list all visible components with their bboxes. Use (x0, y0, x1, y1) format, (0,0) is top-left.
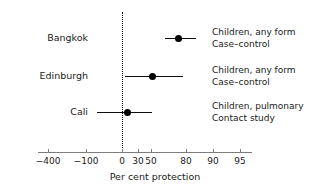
x-axis-title: Per cent protection (0, 171, 310, 182)
annotation-cali: Children, pulmonaryContact study (212, 101, 304, 124)
point-estimate-edinburgh (149, 73, 156, 80)
x-tick-label-3: 30 (132, 156, 143, 166)
x-tick-4 (151, 149, 152, 152)
x-tick-label-5: 80 (180, 156, 191, 166)
x-tick-7 (240, 149, 241, 152)
annotation-bangkok: Children, any formCase–control (212, 27, 296, 50)
x-tick-2 (122, 149, 123, 152)
annotation-line-1: Children, any form (212, 65, 296, 77)
x-tick-5 (186, 149, 187, 152)
x-tick-label-7: 95 (234, 156, 245, 166)
annotation-line-1: Children, pulmonary (212, 101, 304, 113)
annotation-line-2: Contact study (212, 113, 304, 125)
zero-reference-line (122, 12, 123, 152)
x-tick-3 (138, 149, 139, 152)
x-tick-label-4: 50 (145, 156, 156, 166)
x-tick-1 (86, 149, 87, 152)
annotation-line-2: Case–control (212, 77, 296, 89)
point-estimate-bangkok (175, 35, 182, 42)
plot-area: BangkokChildren, any formCase–controlEdi… (0, 0, 310, 192)
x-tick-label-6: 90 (207, 156, 218, 166)
annotation-edinburgh: Children, any formCase–control (212, 65, 296, 88)
point-estimate-cali (124, 109, 131, 116)
x-tick-label-2: 0 (119, 156, 125, 166)
x-tick-label-1: −100 (74, 156, 99, 166)
x-tick-0 (48, 149, 49, 152)
study-label-bangkok: Bangkok (0, 32, 88, 43)
x-tick-label-0: −400 (36, 156, 61, 166)
study-label-edinburgh: Edinburgh (0, 70, 88, 81)
x-axis-line (38, 152, 252, 153)
forest-plot-figure: BangkokChildren, any formCase–controlEdi… (0, 0, 310, 192)
study-label-cali: Cali (0, 106, 88, 117)
annotation-line-1: Children, any form (212, 27, 296, 39)
annotation-line-2: Case–control (212, 39, 296, 51)
x-tick-6 (213, 149, 214, 152)
